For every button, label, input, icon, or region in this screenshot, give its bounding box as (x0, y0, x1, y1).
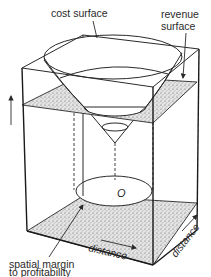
label-spatial-margin-line2: to profitability (9, 266, 72, 277)
label-cost-surface: cost surface (51, 7, 108, 19)
front-left-edge (22, 68, 27, 231)
label-revenue-line2: surface (161, 20, 196, 32)
label-revenue-line1: revenue (161, 8, 199, 20)
right-edge (197, 49, 199, 230)
spatial-margin-diagram: cost surface revenue surface O distance … (0, 0, 211, 277)
pointer-revenue-surface (183, 33, 186, 78)
label-origin: O (117, 187, 126, 199)
profitable-zone-ellipse (76, 176, 152, 206)
diagram-canvas: cost surface revenue surface O distance … (0, 0, 211, 277)
